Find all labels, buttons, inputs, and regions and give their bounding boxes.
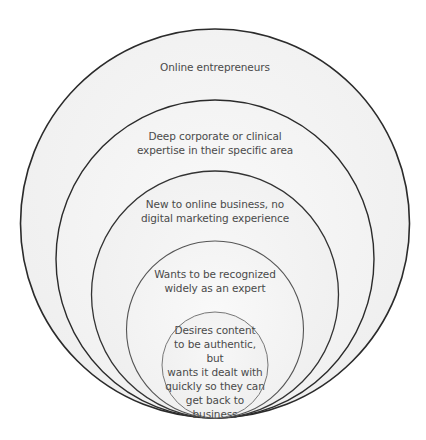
label-line: Wants to be recognized <box>140 267 290 281</box>
label-line: Online entrepreneurs <box>160 61 270 73</box>
label-line: Deep corporate or clinical <box>110 129 320 143</box>
label-wants-recognition: Wants to be recognized widely as an expe… <box>140 267 290 295</box>
label-online-entrepreneurs: Online entrepreneurs <box>115 60 315 74</box>
label-line: expertise in their specific area <box>110 143 320 157</box>
nested-circles-diagram: Online entrepreneurs Deep corporate or c… <box>0 0 426 440</box>
label-line: digital marketing experience <box>125 211 305 225</box>
label-line: Desires content <box>164 323 266 337</box>
label-line: to be authentic, but <box>164 337 266 365</box>
label-line: wants it dealt with <box>164 365 266 379</box>
label-line: business <box>164 407 266 421</box>
label-desires-authentic-content: Desires content to be authentic, but wan… <box>164 323 266 421</box>
label-line: quickly so they can <box>164 379 266 393</box>
label-new-to-online: New to online business, no digital marke… <box>125 197 305 225</box>
label-line: get back to <box>164 393 266 407</box>
label-line: widely as an expert <box>140 281 290 295</box>
label-deep-expertise: Deep corporate or clinical expertise in … <box>110 129 320 157</box>
label-line: New to online business, no <box>125 197 305 211</box>
